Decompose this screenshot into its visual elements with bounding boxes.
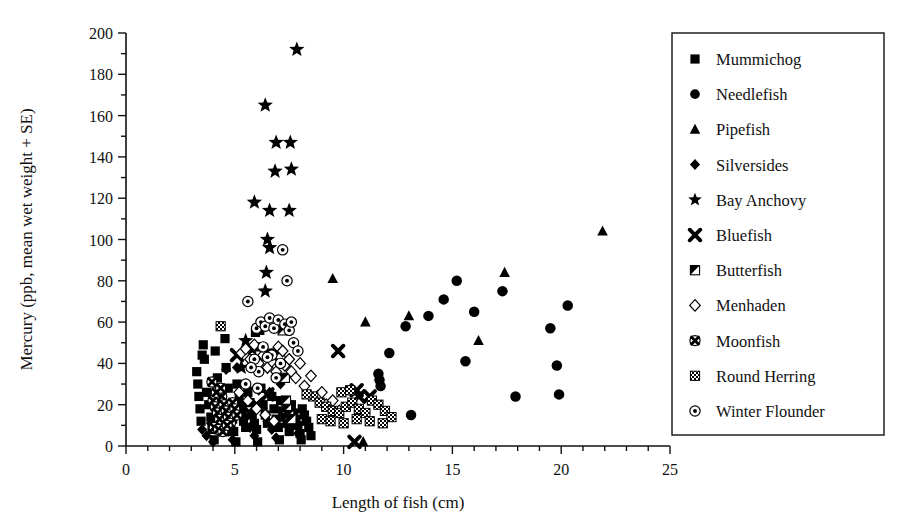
legend-item-label: Round Herring bbox=[716, 367, 815, 386]
scatter-plot: 0510152025020406080100120140160180200Len… bbox=[0, 0, 904, 526]
legend-marker-filled-square bbox=[690, 54, 699, 63]
marker-filled-circle bbox=[400, 321, 411, 332]
marker-circled-dot bbox=[286, 317, 296, 327]
marker-filled-circle bbox=[497, 286, 508, 297]
legend-item-round-herring[interactable]: Round Herring bbox=[676, 361, 880, 392]
marker-circled-dot bbox=[690, 406, 700, 416]
marker-circled-dot bbox=[252, 383, 262, 393]
marker-open-diamond bbox=[306, 370, 317, 382]
x-tick-label: 10 bbox=[336, 461, 352, 478]
marker-filled-triangle bbox=[404, 310, 415, 320]
legend-item-label: Silversides bbox=[716, 156, 788, 175]
y-axis-title: Mercury (ppb, mean wet weight + SE) bbox=[17, 108, 36, 370]
marker-filled-square bbox=[198, 351, 207, 360]
marker-circled-dot bbox=[275, 358, 285, 368]
marker-open-diamond bbox=[295, 358, 306, 370]
marker-checkered-square bbox=[317, 415, 326, 424]
legend-item-label: Bluefish bbox=[716, 226, 773, 245]
legend-item-label: Moonfish bbox=[716, 332, 781, 351]
marker-filled-square bbox=[196, 417, 205, 426]
marker-checkered-square bbox=[337, 388, 346, 397]
legend-item-needlefish[interactable]: Needlefish bbox=[676, 79, 880, 110]
marker-filled-circle bbox=[375, 381, 386, 392]
legend-item-moonfish[interactable]: Moonfish bbox=[676, 326, 880, 357]
marker-filled-square bbox=[195, 404, 204, 413]
x-tick-label: 20 bbox=[553, 461, 569, 478]
y-tick-label: 200 bbox=[89, 25, 113, 42]
marker-circled-dot bbox=[262, 352, 272, 362]
y-tick-label: 120 bbox=[89, 190, 113, 207]
marker-checkered-square bbox=[352, 415, 361, 424]
legend-item-hitbox[interactable] bbox=[676, 114, 880, 145]
x-tick-label: 15 bbox=[444, 461, 460, 478]
legend-item-butterfish[interactable]: Butterfish bbox=[676, 255, 880, 286]
marker-circled-dot bbox=[241, 379, 251, 389]
y-tick-label: 60 bbox=[97, 314, 113, 331]
axes bbox=[118, 33, 670, 454]
legend-marker-half-square bbox=[690, 266, 699, 275]
marker-filled-circle bbox=[690, 89, 700, 99]
marker-checkered-square bbox=[339, 419, 348, 428]
legend-item-silversides[interactable]: Silversides bbox=[676, 150, 880, 181]
y-tick-label: 140 bbox=[89, 149, 113, 166]
legend-marker-filled-circle bbox=[690, 89, 700, 99]
marker-circled-cross bbox=[690, 336, 700, 346]
marker-filled-circle bbox=[469, 307, 480, 318]
marker-circled-cross bbox=[216, 383, 226, 393]
marker-filled-circle bbox=[452, 276, 463, 287]
marker-filled-circle bbox=[384, 348, 395, 359]
marker-checkered-square bbox=[387, 412, 396, 421]
marker-filled-star bbox=[260, 231, 275, 246]
legend-item-winter-flounder[interactable]: Winter Flounder bbox=[676, 396, 880, 427]
marker-filled-star bbox=[247, 194, 262, 209]
marker-checkered-square bbox=[216, 322, 225, 331]
marker-filled-star bbox=[268, 134, 283, 149]
marker-checkered-square bbox=[346, 386, 355, 395]
marker-checkered-square bbox=[365, 417, 374, 426]
x-tick-label: 0 bbox=[122, 461, 130, 478]
marker-checkered-square bbox=[326, 417, 335, 426]
marker-circled-dot bbox=[246, 362, 256, 372]
marker-filled-triangle bbox=[597, 225, 608, 235]
marker-circled-dot bbox=[271, 373, 281, 383]
series-needlefish bbox=[373, 276, 573, 421]
legend-item-mummichog[interactable]: Mummichog bbox=[676, 44, 880, 75]
marker-filled-square bbox=[211, 346, 220, 355]
marker-filled-star bbox=[289, 41, 304, 56]
marker-filled-circle bbox=[438, 294, 449, 305]
marker-half-square bbox=[287, 415, 296, 424]
marker-circled-cross bbox=[207, 377, 217, 387]
marker-filled-star bbox=[262, 203, 277, 218]
legend-item-label: Mummichog bbox=[716, 50, 801, 69]
marker-filled-star bbox=[267, 163, 282, 178]
x-tick-label: 5 bbox=[231, 461, 239, 478]
marker-half-square bbox=[690, 266, 699, 275]
marker-filled-triangle bbox=[499, 267, 510, 277]
axis-labels: 0510152025020406080100120140160180200Len… bbox=[17, 25, 678, 512]
legend-item-bluefish[interactable]: Bluefish bbox=[676, 220, 880, 251]
legend-item-menhaden[interactable]: Menhaden bbox=[676, 290, 880, 321]
marker-filled-star bbox=[259, 264, 274, 279]
marker-filled-circle bbox=[554, 389, 565, 400]
marker-filled-star bbox=[258, 97, 273, 112]
marker-circled-cross bbox=[222, 420, 232, 430]
marker-circled-dot bbox=[278, 245, 288, 255]
legend-item-bay-anchovy[interactable]: Bay Anchovy bbox=[676, 185, 880, 216]
marker-checkered-square bbox=[690, 371, 699, 380]
legend[interactable]: MummichogNeedlefishPipefishSilversidesBa… bbox=[672, 33, 884, 435]
marker-checkered-square bbox=[302, 390, 311, 399]
marker-filled-square bbox=[306, 431, 315, 440]
y-tick-label: 40 bbox=[97, 355, 113, 372]
marker-filled-circle bbox=[562, 300, 573, 311]
marker-filled-square bbox=[690, 54, 699, 63]
marker-filled-star bbox=[283, 134, 298, 149]
legend-item-label: Butterfish bbox=[716, 261, 783, 280]
marker-filled-square bbox=[304, 423, 313, 432]
legend-item-pipefish[interactable]: Pipefish bbox=[676, 114, 880, 145]
legend-marker-circled-cross bbox=[690, 336, 700, 346]
legend-item-hitbox[interactable] bbox=[676, 220, 880, 251]
marker-circled-dot bbox=[243, 296, 253, 306]
y-tick-label: 20 bbox=[97, 397, 113, 414]
legend-item-label: Winter Flounder bbox=[716, 402, 825, 421]
marker-filled-triangle bbox=[327, 273, 338, 283]
